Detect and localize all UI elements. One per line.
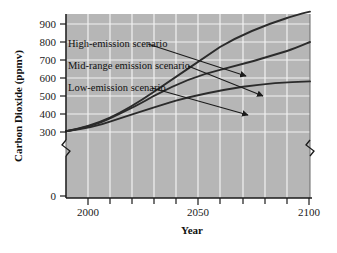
annotation-label-low-emission: Low-emission scenario <box>68 82 166 93</box>
x-axis-title: Year <box>181 224 203 236</box>
annotation-label-high-emission: High-emission scenario <box>68 38 167 49</box>
y-tick-label-700: 700 <box>40 54 57 66</box>
y-tick-label-900: 900 <box>40 18 57 30</box>
y-tick-label-800: 800 <box>40 36 57 48</box>
y-tick-label-300: 300 <box>40 126 57 138</box>
annotation-label-mid-range: Mid-range emission scenario <box>68 60 190 71</box>
y-tick-label-500: 500 <box>40 90 57 102</box>
co2-emission-scenarios-chart: High-emission scenario Mid-range emissio… <box>0 0 337 253</box>
x-tick-label-2100: 2100 <box>298 206 321 218</box>
y-tick-label-0: 0 <box>51 190 57 202</box>
chart-svg: High-emission scenario Mid-range emissio… <box>0 0 337 253</box>
y-tick-label-400: 400 <box>40 108 57 120</box>
x-tick-label-2000: 2000 <box>77 206 100 218</box>
y-tick-label-600: 600 <box>40 72 57 84</box>
y-axis-title: Carbon Dioxide (ppmv) <box>12 50 25 162</box>
x-tick-label-2050: 2050 <box>187 206 210 218</box>
